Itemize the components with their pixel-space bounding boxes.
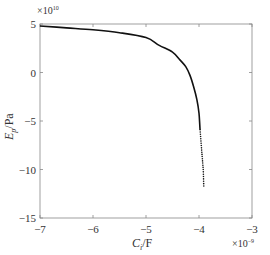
y-tick-label: −5 — [24, 115, 36, 127]
y-tick-labels: 50−5−10−15 — [19, 18, 37, 224]
plot-area — [40, 24, 252, 218]
chart-container: 50−5−10−15 −7−6−5−4−3 ×1010 ×10−9 Ci/F E… — [0, 0, 270, 255]
x-axis-label: Ci/F — [132, 236, 153, 252]
x-tick-label: −5 — [140, 223, 152, 235]
x-multiplier: ×10−9 — [232, 238, 254, 249]
y-tick-label: 5 — [31, 18, 37, 30]
y-multiplier: ×1010 — [37, 5, 59, 16]
x-tick-label: −3 — [246, 223, 258, 235]
x-tick-label: −6 — [87, 223, 99, 235]
y-axis-label: Ep/Pa — [2, 113, 18, 141]
y-tick-label: 0 — [31, 67, 37, 79]
x-tick-label: −7 — [34, 223, 46, 235]
y-tick-label: −10 — [19, 164, 37, 176]
x-tick-label: −4 — [193, 223, 205, 235]
line-chart: 50−5−10−15 −7−6−5−4−3 ×1010 ×10−9 Ci/F E… — [0, 0, 270, 255]
x-tick-labels: −7−6−5−4−3 — [34, 223, 258, 235]
